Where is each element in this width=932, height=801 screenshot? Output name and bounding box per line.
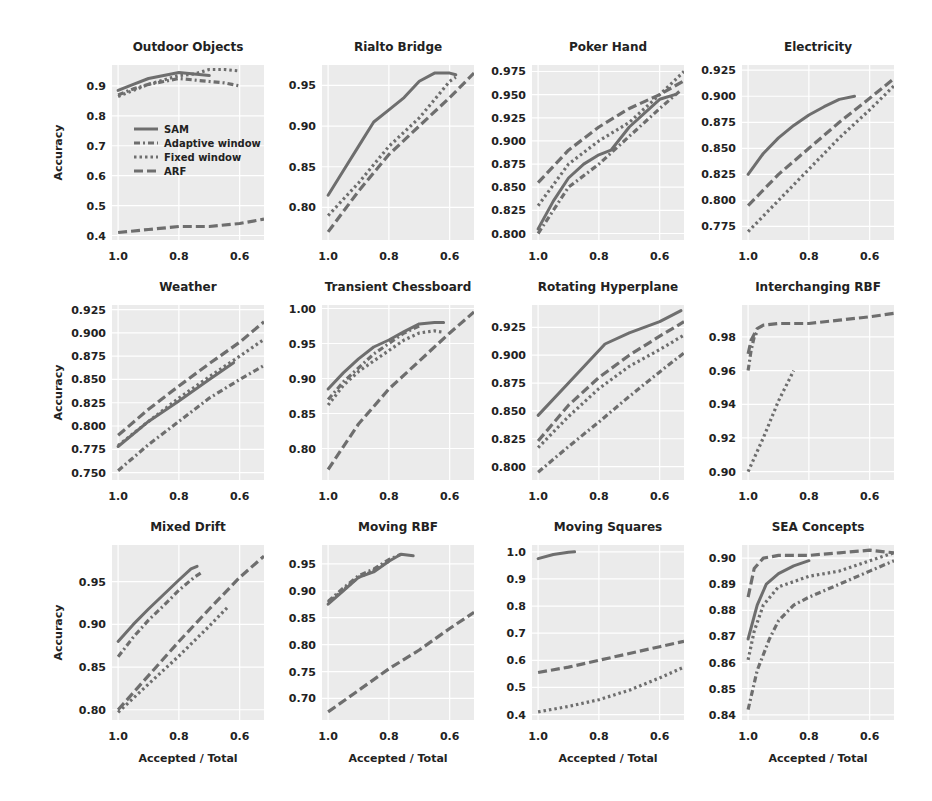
legend-label: Adaptive window bbox=[164, 138, 261, 149]
y-tick-label: 0.90 bbox=[709, 552, 736, 565]
y-tick-label: 0.88 bbox=[709, 604, 736, 617]
panel-title: Electricity bbox=[784, 40, 852, 54]
x-tick-label: 1.0 bbox=[318, 730, 338, 743]
panel-weather: 1.00.80.60.7500.7750.8000.8250.8500.8750… bbox=[52, 280, 264, 503]
panel-transient-chessboard: 1.00.80.60.800.850.900.951.00Transient C… bbox=[289, 280, 474, 503]
panel-poker-hand: 1.00.80.60.8000.8250.8500.8750.9000.9250… bbox=[491, 40, 684, 263]
legend-label: ARF bbox=[164, 166, 186, 177]
y-tick-label: 0.5 bbox=[87, 200, 107, 213]
y-tick-label: 0.95 bbox=[289, 79, 316, 92]
y-axis-label: Accuracy bbox=[52, 605, 65, 661]
panel-title: Moving Squares bbox=[554, 520, 663, 534]
x-tick-label: 0.8 bbox=[799, 250, 819, 263]
y-tick-label: 0.4 bbox=[87, 230, 107, 243]
y-tick-label: 0.84 bbox=[709, 709, 736, 722]
y-tick-label: 0.775 bbox=[71, 443, 106, 456]
x-tick-label: 0.6 bbox=[230, 490, 250, 503]
x-tick-label: 1.0 bbox=[738, 730, 758, 743]
x-tick-label: 0.8 bbox=[379, 250, 399, 263]
x-axis-label: Accepted / Total bbox=[558, 752, 657, 765]
y-tick-label: 0.925 bbox=[491, 112, 526, 125]
y-tick-label: 0.70 bbox=[289, 692, 316, 705]
x-tick-label: 0.8 bbox=[169, 730, 189, 743]
y-tick-label: 0.800 bbox=[701, 194, 736, 207]
y-tick-label: 0.7 bbox=[507, 627, 527, 640]
plot-area bbox=[742, 305, 894, 480]
y-tick-label: 0.6 bbox=[87, 170, 107, 183]
y-tick-label: 0.96 bbox=[709, 365, 736, 378]
y-tick-label: 0.85 bbox=[289, 612, 316, 625]
y-tick-label: 0.90 bbox=[289, 373, 316, 386]
y-tick-label: 0.900 bbox=[71, 327, 106, 340]
y-tick-label: 0.98 bbox=[709, 331, 736, 344]
y-tick-label: 0.750 bbox=[71, 467, 106, 480]
panel-title: SEA Concepts bbox=[772, 520, 865, 534]
y-tick-label: 0.825 bbox=[701, 168, 736, 181]
y-tick-label: 0.825 bbox=[491, 204, 526, 217]
panel-rialto-bridge: 1.00.80.60.800.850.900.95Rialto Bridge bbox=[289, 40, 474, 263]
y-tick-label: 0.900 bbox=[701, 90, 736, 103]
x-tick-label: 1.0 bbox=[108, 490, 128, 503]
panel-title: Outdoor Objects bbox=[133, 40, 244, 54]
y-tick-label: 0.850 bbox=[491, 405, 526, 418]
x-tick-label: 0.8 bbox=[379, 730, 399, 743]
plot-area bbox=[532, 545, 684, 720]
y-tick-label: 0.4 bbox=[507, 709, 527, 722]
panel-sea-concepts: 1.00.80.60.840.850.860.870.880.890.90SEA… bbox=[709, 520, 894, 765]
y-tick-label: 0.87 bbox=[709, 630, 736, 643]
y-tick-label: 0.9 bbox=[507, 573, 527, 586]
y-axis-label: Accuracy bbox=[52, 365, 65, 421]
x-tick-label: 1.0 bbox=[108, 730, 128, 743]
y-tick-label: 0.775 bbox=[701, 220, 736, 233]
x-tick-label: 0.8 bbox=[799, 730, 819, 743]
panel-title: Rotating Hyperplane bbox=[538, 280, 678, 294]
y-tick-label: 0.875 bbox=[491, 158, 526, 171]
x-tick-label: 0.8 bbox=[589, 730, 609, 743]
y-tick-label: 0.85 bbox=[709, 683, 736, 696]
x-axis-label: Accepted / Total bbox=[768, 752, 867, 765]
y-tick-label: 0.95 bbox=[289, 558, 316, 571]
x-tick-label: 0.6 bbox=[650, 250, 670, 263]
y-tick-label: 0.8 bbox=[87, 110, 107, 123]
panel-title: Transient Chessboard bbox=[325, 280, 472, 294]
x-tick-label: 0.8 bbox=[589, 490, 609, 503]
y-tick-label: 0.95 bbox=[79, 576, 106, 589]
y-tick-label: 0.850 bbox=[491, 181, 526, 194]
x-tick-label: 0.6 bbox=[650, 490, 670, 503]
panel-outdoor-objects: 1.00.80.60.40.50.60.70.80.9Outdoor Objec… bbox=[52, 40, 264, 263]
plot-area bbox=[112, 305, 264, 480]
x-tick-label: 0.8 bbox=[799, 490, 819, 503]
y-tick-label: 0.9 bbox=[87, 80, 107, 93]
x-tick-label: 0.8 bbox=[379, 490, 399, 503]
x-tick-label: 0.6 bbox=[440, 250, 460, 263]
y-tick-label: 0.7 bbox=[87, 140, 107, 153]
y-tick-label: 0.800 bbox=[491, 228, 526, 241]
y-tick-label: 0.875 bbox=[701, 116, 736, 129]
panel-rotating-hyperplane: 1.00.80.60.8000.8250.8500.8750.9000.925R… bbox=[491, 280, 684, 503]
y-tick-label: 1.00 bbox=[289, 303, 316, 316]
y-axis-label: Accuracy bbox=[52, 125, 65, 181]
x-axis-label: Accepted / Total bbox=[348, 752, 447, 765]
y-tick-label: 0.85 bbox=[79, 661, 106, 674]
panel-title: Moving RBF bbox=[358, 520, 438, 534]
y-tick-label: 0.8 bbox=[507, 600, 527, 613]
plot-area bbox=[322, 65, 474, 240]
y-tick-label: 0.900 bbox=[491, 135, 526, 148]
y-tick-label: 0.90 bbox=[289, 585, 316, 598]
y-tick-label: 0.800 bbox=[71, 420, 106, 433]
x-tick-label: 0.8 bbox=[169, 250, 189, 263]
x-tick-label: 0.6 bbox=[860, 250, 880, 263]
y-tick-label: 0.925 bbox=[701, 64, 736, 77]
x-tick-label: 0.6 bbox=[230, 730, 250, 743]
y-tick-label: 1.0 bbox=[507, 546, 527, 559]
y-tick-label: 0.90 bbox=[289, 120, 316, 133]
y-tick-label: 0.86 bbox=[709, 657, 736, 670]
panel-title: Weather bbox=[159, 280, 216, 294]
x-tick-label: 1.0 bbox=[738, 250, 758, 263]
legend-label: Fixed window bbox=[164, 152, 241, 163]
y-tick-label: 0.6 bbox=[507, 654, 527, 667]
y-tick-label: 0.875 bbox=[491, 377, 526, 390]
y-tick-label: 0.95 bbox=[289, 338, 316, 351]
y-tick-label: 0.850 bbox=[71, 373, 106, 386]
y-tick-label: 0.875 bbox=[71, 350, 106, 363]
